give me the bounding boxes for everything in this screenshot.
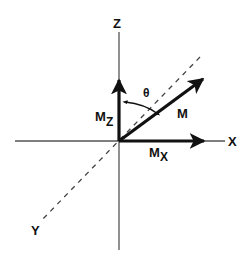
vector-diagram: Z X Y θ M M Z M X <box>0 0 251 260</box>
mx-label: M X <box>149 145 168 164</box>
y-axis-label: Y <box>31 223 40 238</box>
m-label: M <box>177 106 188 121</box>
m-vector <box>119 79 203 141</box>
svg-text:X: X <box>160 150 168 164</box>
theta-arc <box>125 102 158 114</box>
mz-label: M Z <box>95 109 113 129</box>
theta-label: θ <box>143 86 150 100</box>
svg-text:M: M <box>149 145 160 160</box>
x-axis-label: X <box>228 134 237 149</box>
z-axis-label: Z <box>113 16 121 31</box>
svg-text:Z: Z <box>106 115 113 129</box>
svg-text:M: M <box>95 109 106 124</box>
